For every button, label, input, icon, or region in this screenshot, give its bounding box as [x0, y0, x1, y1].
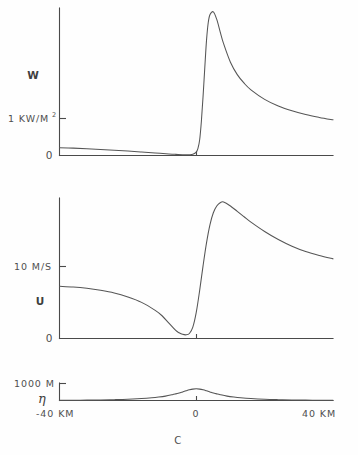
- panel-middle-u: 10 M/S U 0: [14, 198, 333, 344]
- top-y-axis-label: W: [27, 69, 39, 81]
- bottom-xtick-left-label: -40 KM: [36, 408, 74, 419]
- top-origin-label: 0: [46, 149, 53, 161]
- figure-container: W 1 KW/M 2 0 10 M/S U 0 1000 M η -40 KM: [0, 0, 358, 455]
- middle-ytick-label: 10 M/S: [14, 261, 52, 272]
- panel-top-w: W 1 KW/M 2 0: [8, 8, 333, 161]
- top-ytick-label: 1 KW/M: [8, 113, 49, 124]
- u-velocity-curve: [60, 202, 334, 335]
- top-ytick-label-superscript: 2: [52, 111, 56, 119]
- middle-origin-label: 0: [46, 332, 53, 344]
- middle-y-axis-label: U: [36, 295, 45, 307]
- bottom-y-axis-label: η: [38, 391, 46, 406]
- bottom-xtick-center-label: 0: [193, 408, 200, 419]
- bottom-ytick-label: 1000 M: [14, 378, 55, 389]
- panel-bottom-eta: 1000 M η -40 KM 0 40 KM: [14, 378, 336, 419]
- figure-caption: C: [174, 435, 181, 446]
- bottom-xtick-right-label: 40 KM: [302, 408, 336, 419]
- w-power-curve: [60, 12, 334, 155]
- multi-panel-plot: W 1 KW/M 2 0 10 M/S U 0 1000 M η -40 KM: [0, 0, 358, 455]
